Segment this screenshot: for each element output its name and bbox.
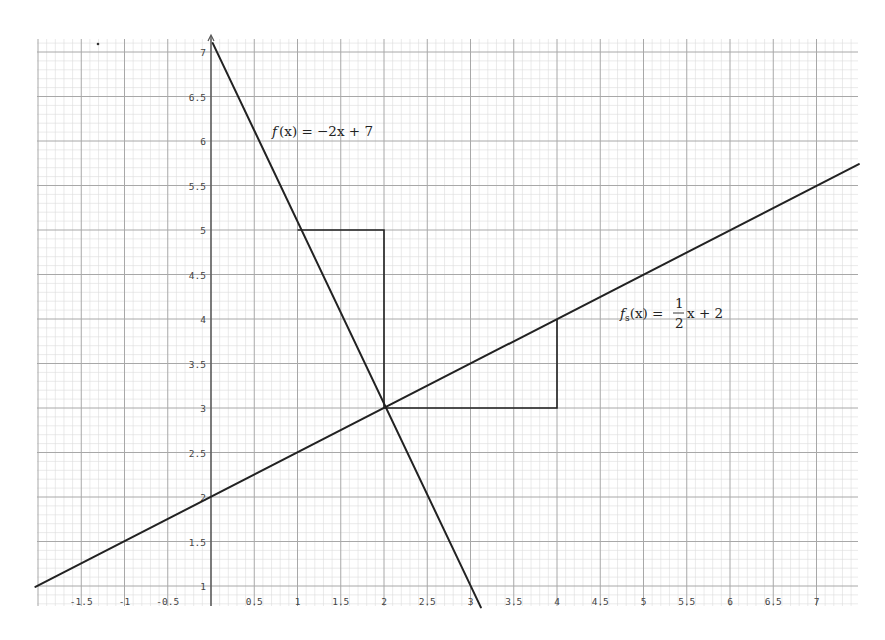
x-tick-label: -0.5 [156,596,179,607]
svg-text:fs(x) =: fs(x) = [619,305,663,323]
x-tick-label: 7 [814,596,820,607]
chart-plot: -1.5-1-0.50.511.522.533.544.555.566.5711… [0,0,885,640]
x-tick-label: 3.5 [505,596,522,607]
svg-text:1: 1 [675,295,684,311]
y-tick-label: 4 [200,314,206,325]
x-tick-label: 4.5 [592,596,609,607]
x-tick-label: 1.5 [332,596,349,607]
x-tick-label: 0.5 [246,596,263,607]
x-tick-label: 6 [727,596,733,607]
axes [208,35,214,606]
svg-text:2: 2 [675,315,684,331]
stray-dot [97,43,100,46]
x-tick-label: 1 [295,596,301,607]
x-tick-label: 5.5 [678,596,695,607]
y-tick-label: 3 [200,403,206,414]
svg-text:x + 2: x + 2 [687,305,723,321]
y-tick-label: 1.5 [189,537,206,548]
x-tick-label: -1.5 [70,596,93,607]
y-tick-label: 6 [200,136,206,147]
x-tick-label: 2.5 [419,596,436,607]
y-tick-label: 5 [200,225,206,236]
x-tick-label: 4 [554,596,560,607]
y-tick-label: 4.5 [189,270,206,281]
minor-grid [37,39,858,606]
major-grid [37,39,858,606]
y-tick-label: 1 [200,581,206,592]
y-tick-label: 2.5 [189,448,206,459]
x-tick-label: 5 [641,596,647,607]
y-tick-label: 3.5 [189,359,206,370]
x-tick-label: -1 [119,596,131,607]
x-tick-label: 3 [468,596,474,607]
y-tick-label: 5.5 [189,181,206,192]
f-equation-label: f(x) = −2x + 7 [271,123,373,139]
y-tick-label: 6.5 [189,92,206,103]
x-tick-label: 2 [381,596,387,607]
y-tick-label: 7 [200,47,206,58]
x-tick-label: 6.5 [765,596,782,607]
